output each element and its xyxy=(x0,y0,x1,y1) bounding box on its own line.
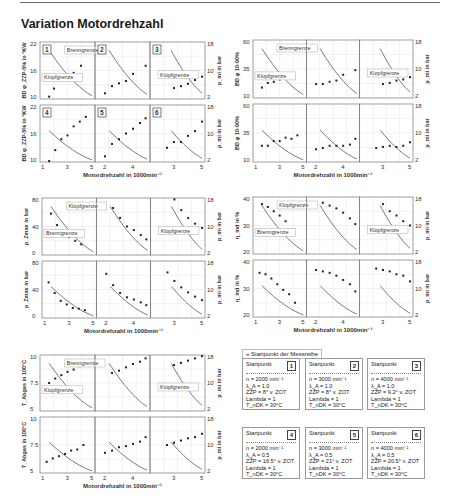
data-point xyxy=(194,357,196,359)
x-axis-label: Motordrehzahl in 1000min⁻¹ xyxy=(84,328,163,334)
data-point xyxy=(104,92,106,94)
data-point xyxy=(180,440,182,442)
data-point xyxy=(187,360,189,362)
data-point xyxy=(118,370,120,372)
svg-text:20: 20 xyxy=(243,312,250,318)
startpoint-box-4: Startpunkt4n = 2000 min⁻¹λ_A = 0.5ZŽP = … xyxy=(242,427,300,479)
annotation-label: Klopfgrenze xyxy=(160,384,189,390)
startpoint-header: Startpunkt2 xyxy=(309,361,359,374)
annotation-label: Klopfgrenze xyxy=(68,203,97,209)
data-point xyxy=(329,81,331,83)
data-point xyxy=(382,203,384,205)
startpoint-param: Lambda = 1 xyxy=(246,465,296,472)
data-point xyxy=(125,366,127,368)
data-point xyxy=(132,128,134,130)
svg-text:2: 2 xyxy=(415,93,419,99)
panel-4: 135 xyxy=(40,417,95,481)
annotation-label: Brenngrenze xyxy=(67,47,99,53)
startpoint-title: Startpunkt xyxy=(371,430,397,437)
svg-text:2: 2 xyxy=(207,406,211,412)
annotation-label: Brenngrenze xyxy=(279,45,311,51)
chart-block-1: 1BrenngrenzeKlopfgrenze23Klopfgrenze2216… xyxy=(21,41,222,178)
data-point xyxy=(126,296,128,298)
svg-text:2: 2 xyxy=(314,164,318,170)
data-point xyxy=(173,442,175,444)
data-point xyxy=(409,225,411,227)
data-point xyxy=(126,226,128,228)
data-point xyxy=(118,446,120,448)
svg-text:2: 2 xyxy=(104,320,108,326)
data-point xyxy=(291,138,293,140)
data-point xyxy=(261,87,263,89)
startpoint-param: T_nDK = 30°C xyxy=(309,402,359,409)
data-point xyxy=(132,363,134,365)
data-point xyxy=(395,273,397,275)
startpoint-param: ZŽP = 9.2° v. ZOT xyxy=(371,389,421,396)
data-point xyxy=(329,145,331,147)
x-axis-label: Motordrehzahl in 1000min⁻¹ xyxy=(293,172,372,178)
svg-text:3: 3 xyxy=(381,319,385,325)
data-point xyxy=(66,303,68,305)
startpoint-header: Startpunkt6 xyxy=(371,430,421,443)
data-point xyxy=(145,65,147,67)
data-point xyxy=(409,280,411,282)
pmi-curve xyxy=(320,49,357,94)
svg-text:2: 2 xyxy=(103,475,107,481)
data-point xyxy=(282,289,284,291)
data-point xyxy=(335,275,337,277)
data-point xyxy=(166,271,168,273)
data-point xyxy=(54,292,56,294)
svg-text:10: 10 xyxy=(207,442,214,448)
data-point xyxy=(173,198,175,200)
data-point xyxy=(187,437,189,439)
data-point xyxy=(335,80,337,82)
panel-6: 35 xyxy=(360,260,413,325)
data-point xyxy=(315,269,317,271)
panel-3: Klopfgrenze xyxy=(150,355,205,411)
annotation-label: Klopfgrenze xyxy=(44,74,73,80)
panel-6: 35 xyxy=(360,104,413,170)
panel-5: 524 xyxy=(95,105,150,170)
startpoint-param: ZŽP = 8° v. ZOT xyxy=(246,389,296,396)
panel-3: 3Klopfgrenze xyxy=(150,42,205,99)
data-point xyxy=(354,138,356,140)
svg-text:1: 1 xyxy=(41,164,45,170)
svg-text:10: 10 xyxy=(243,157,250,163)
data-point xyxy=(389,145,391,147)
data-point xyxy=(104,155,106,157)
svg-text:16: 16 xyxy=(30,68,37,74)
y-axis-label: BD φ_ZZP-5% in °KW xyxy=(21,105,27,162)
data-point xyxy=(194,79,196,81)
data-point xyxy=(201,355,203,357)
startpoint-title: Startpunkt xyxy=(246,361,272,368)
data-point xyxy=(111,372,113,374)
svg-text:10: 10 xyxy=(415,130,422,136)
data-point xyxy=(125,445,127,447)
data-point xyxy=(187,83,189,85)
svg-text:4: 4 xyxy=(45,109,49,116)
data-point xyxy=(133,298,135,300)
svg-text:10: 10 xyxy=(207,224,214,230)
svg-text:3: 3 xyxy=(66,164,70,170)
svg-text:5: 5 xyxy=(30,468,34,474)
svg-text:2: 2 xyxy=(415,157,419,163)
data-point xyxy=(349,283,351,285)
svg-text:10: 10 xyxy=(207,287,214,293)
right-axis-label: p_mi in bar xyxy=(424,210,430,240)
startpoint-header: Startpunkt1 xyxy=(246,361,296,374)
svg-text:10: 10 xyxy=(415,286,422,292)
panel-2: 2 xyxy=(95,42,150,99)
svg-text:7.5: 7.5 xyxy=(30,380,39,386)
data-point xyxy=(315,83,317,85)
data-point xyxy=(267,145,269,147)
x-axis-label: Motordrehzahl in 1000min⁻¹ xyxy=(83,172,162,178)
data-point xyxy=(180,85,182,87)
pmi-curve xyxy=(171,442,202,469)
panel-4: 135 xyxy=(253,104,306,170)
startpoint-number: 3 xyxy=(412,361,421,371)
data-point xyxy=(60,138,62,140)
startpoint-param: ZŽP = 20.5° v. ZOT xyxy=(371,458,421,465)
svg-text:18: 18 xyxy=(415,259,422,265)
data-point xyxy=(139,361,141,363)
y-axis-label: p_Zmax in bar xyxy=(23,270,29,308)
